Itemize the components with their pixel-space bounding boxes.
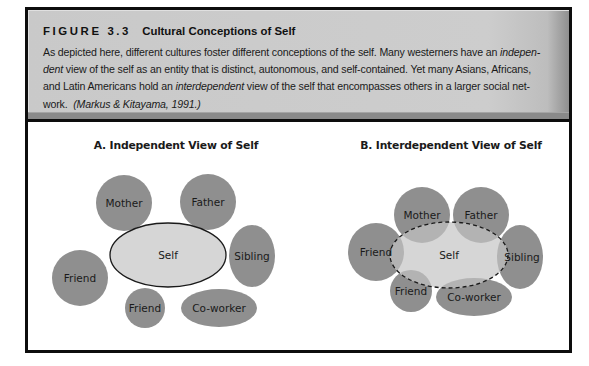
caption-text: view of the self as an entity that is di… — [63, 63, 531, 75]
other-label: Friend — [395, 285, 427, 297]
figure-heading: FIGURE 3.3 Cultural Conceptions of Self — [43, 24, 295, 38]
other-label: Friend — [360, 246, 392, 258]
other-label: Mother — [105, 197, 143, 209]
other-label: Mother — [403, 209, 441, 221]
other-label: Friend — [64, 272, 96, 284]
self-label: Self — [439, 249, 459, 261]
independent-view-title: A. Independent View of Self — [94, 139, 258, 152]
other-label: Sibling — [504, 251, 539, 263]
other-label: Father — [464, 209, 498, 221]
caption-text: view of the self that encompasses others… — [244, 80, 530, 92]
other-label: Sibling — [234, 250, 269, 262]
caption-emphasis: interdependent — [175, 80, 244, 92]
caption-text: work. — [43, 98, 70, 110]
figure-title: Cultural Conceptions of Self — [142, 25, 295, 37]
other-label: Co-worker — [192, 302, 246, 314]
figure-frame: FIGURE 3.3 Cultural Conceptions of Self … — [25, 7, 572, 353]
diagram-area: A. Independent View of Self B. Interdepe… — [28, 122, 569, 350]
other-label: Friend — [129, 302, 161, 314]
caption-citation: (Markus & Kitayama, 1991.) — [73, 98, 200, 110]
caption-text: and Latin Americans hold an — [43, 80, 175, 92]
self-label: Self — [158, 249, 178, 261]
other-label: Co-worker — [447, 291, 501, 303]
interdependent-view-title: B. Interdependent View of Self — [360, 139, 541, 152]
figure-label: FIGURE 3.3 — [43, 25, 131, 37]
figure-caption: As depicted here, different cultures fos… — [43, 44, 568, 113]
caption-emphasis: indepen- — [500, 46, 540, 58]
caption-text: As depicted here, different cultures fos… — [43, 46, 500, 58]
self-concept-diagram: MotherFatherSiblingFriendFriendCo-worker… — [28, 122, 569, 350]
caption-emphasis: dent — [43, 63, 63, 75]
other-label: Father — [191, 196, 225, 208]
independent-view-diagram: MotherFatherSiblingFriendFriendCo-worker… — [52, 174, 275, 328]
interdependent-view-diagram: MotherFatherFriendSiblingFriendCo-worker… — [348, 187, 543, 316]
figure-caption-box: FIGURE 3.3 Cultural Conceptions of Self … — [28, 10, 569, 122]
